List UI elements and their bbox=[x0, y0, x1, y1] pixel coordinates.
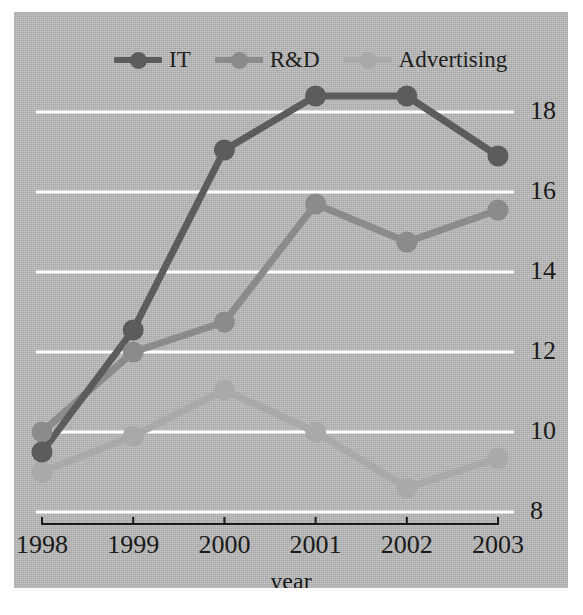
data-point bbox=[305, 422, 326, 443]
data-point bbox=[214, 380, 235, 401]
x-axis-tick-label: 1999 bbox=[88, 532, 178, 558]
chart-figure: IT R&D Advertising 18161412108 199819992… bbox=[0, 0, 583, 615]
data-point bbox=[488, 146, 509, 167]
data-point bbox=[123, 342, 144, 363]
series-line-it bbox=[42, 96, 498, 452]
legend-marker-it-icon bbox=[114, 49, 162, 71]
y-axis-tick-label: 16 bbox=[530, 178, 556, 204]
series-line-r-d bbox=[42, 204, 498, 432]
data-point bbox=[214, 140, 235, 161]
y-axis-tick-label: 10 bbox=[530, 418, 556, 444]
data-point bbox=[32, 442, 53, 463]
chart-svg bbox=[14, 12, 568, 588]
x-axis-tick-label: 2002 bbox=[362, 532, 452, 558]
data-point bbox=[305, 86, 326, 107]
data-point bbox=[123, 320, 144, 341]
plot-area: IT R&D Advertising 18161412108 199819992… bbox=[14, 12, 568, 588]
legend-label-advertising: Advertising bbox=[399, 48, 508, 71]
legend-entry-advertising[interactable]: Advertising bbox=[344, 48, 508, 71]
data-point bbox=[32, 422, 53, 443]
data-point bbox=[214, 312, 235, 333]
y-axis-tick-label: 8 bbox=[530, 498, 543, 524]
data-point bbox=[305, 194, 326, 215]
y-axis-tick-label: 14 bbox=[530, 258, 556, 284]
chart-legend: IT R&D Advertising bbox=[114, 48, 531, 71]
x-axis-tick-label: 2000 bbox=[179, 532, 269, 558]
data-point bbox=[396, 86, 417, 107]
x-axis-title: year bbox=[14, 568, 568, 588]
data-point bbox=[396, 478, 417, 499]
x-axis-tick-label: 2001 bbox=[271, 532, 361, 558]
series-markers bbox=[32, 86, 509, 499]
data-point bbox=[488, 200, 509, 221]
y-axis-tick-label: 18 bbox=[530, 98, 556, 124]
gridlines bbox=[36, 112, 514, 512]
data-point bbox=[396, 232, 417, 253]
legend-marker-rd-icon bbox=[215, 49, 263, 71]
legend-entry-rd[interactable]: R&D bbox=[215, 48, 320, 71]
legend-label-rd: R&D bbox=[270, 48, 320, 71]
series-line-advertising bbox=[42, 390, 498, 488]
legend-marker-advertising-icon bbox=[344, 49, 392, 71]
x-axis-tick-label: 2003 bbox=[453, 532, 543, 558]
data-point bbox=[32, 462, 53, 483]
legend-label-it: IT bbox=[169, 48, 191, 71]
axis-lines bbox=[42, 517, 498, 525]
y-axis-tick-label: 12 bbox=[530, 338, 556, 364]
data-point bbox=[488, 448, 509, 469]
data-point bbox=[123, 426, 144, 447]
x-axis-tick-label: 1998 bbox=[14, 532, 87, 558]
legend-entry-it[interactable]: IT bbox=[114, 48, 191, 71]
series-lines bbox=[42, 96, 498, 488]
